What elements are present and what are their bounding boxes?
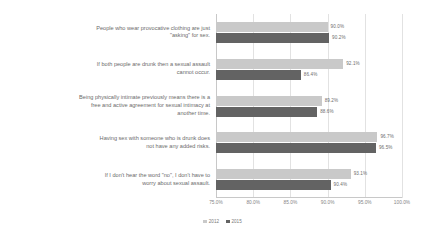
bar-value-label-2015-cat3: 88.6% (320, 107, 334, 117)
bar-value-label-2012-cat5: 93.1% (354, 169, 368, 179)
legend-swatch-icon-2012 (203, 220, 207, 224)
bar-2015-cat2 (216, 70, 301, 80)
category-axis-line (216, 197, 402, 198)
bar-2012-cat5 (216, 169, 351, 179)
x-tick-label-4: 90.0% (321, 200, 335, 205)
bar-2015-cat1 (216, 33, 329, 43)
bar-2012-cat1 (216, 22, 328, 32)
x-axis-tick-labels: 75.0%80.0%85.0%90.0%95.0%100.0% (216, 200, 402, 210)
legend-swatch-icon-2015 (226, 220, 230, 224)
bar-value-label-2012-cat3: 89.2% (325, 96, 339, 106)
bar-2015-cat4 (216, 143, 376, 153)
category-label-2: If both people are drunk then a sexual a… (32, 51, 210, 88)
bar-2015-cat3 (216, 107, 317, 117)
category-label-text: Having sex with someone who is drunk doe… (100, 135, 210, 151)
gridline-1000 (402, 14, 403, 198)
category-label-4: Having sex with someone who is drunk doe… (32, 124, 210, 161)
category-label-3: Being physically intimate previously mea… (32, 88, 210, 125)
x-tick-label-2: 80.0% (246, 200, 260, 205)
category-label-text: If both people are drunk then a sexual a… (97, 61, 210, 77)
bar-2012-cat3 (216, 96, 322, 106)
bar-value-label-2012-cat2: 92.1% (346, 59, 360, 69)
bar-value-label-2015-cat4: 96.5% (379, 143, 393, 153)
x-tick-label-6: 100.0% (394, 200, 410, 205)
bar-value-label-2015-cat5: 90.4% (334, 180, 348, 190)
legend-label-2012: 2012 (209, 219, 219, 224)
x-tick-label-5: 95.0% (358, 200, 372, 205)
category-label-text: Being physically intimate previously mea… (79, 94, 210, 117)
plot-area: 90.0%90.2%92.1%86.4%89.2%88.6%96.7%96.5%… (216, 14, 402, 198)
x-tick-label-3: 85.0% (284, 200, 298, 205)
bar-2012-cat2 (216, 59, 343, 69)
bar-2015-cat5 (216, 180, 331, 190)
x-tick-label-1: 75.0% (209, 200, 223, 205)
legend-item-2015[interactable]: 2015 (226, 219, 242, 224)
legend-item-2012[interactable]: 2012 (203, 219, 219, 224)
category-label-text: If I don't hear the word "no", I don't h… (105, 172, 210, 188)
bar-value-label-2015-cat1: 90.2% (332, 33, 346, 43)
category-label-1: People who wear provocative clothing are… (32, 14, 210, 51)
legend-label-2015: 2015 (232, 219, 242, 224)
category-label-text: People who wear provocative clothing are… (96, 25, 210, 41)
category-label-5: If I don't hear the word "no", I don't h… (32, 161, 210, 198)
bar-value-label-2012-cat1: 90.0% (331, 22, 345, 32)
bar-chart: People who wear provocative clothing are… (0, 0, 445, 239)
bar-2012-cat4 (216, 132, 377, 142)
bar-value-label-2015-cat2: 86.4% (304, 70, 318, 80)
chart-legend: 20122015 (0, 219, 445, 224)
bar-value-label-2012-cat4: 96.7% (380, 132, 394, 142)
